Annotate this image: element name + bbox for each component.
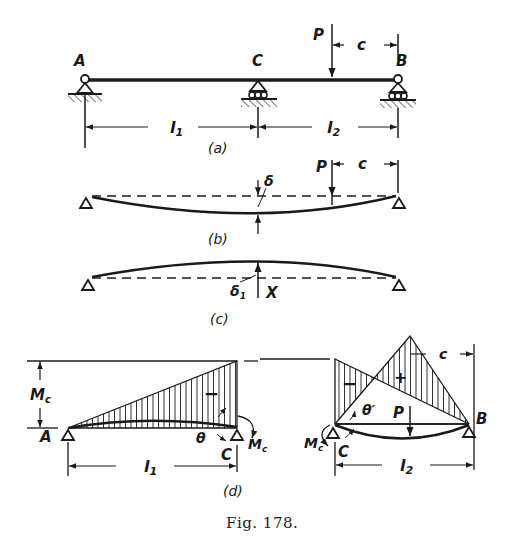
- support-left-icon: [80, 198, 92, 208]
- sign-positive: +: [394, 368, 407, 387]
- reaction-x-label: X: [265, 284, 279, 302]
- support-c-roller-icon: [241, 81, 277, 107]
- load-label-b: P: [316, 158, 327, 176]
- deflection-delta-label: δ: [264, 173, 274, 189]
- load-label-d: P: [393, 404, 404, 422]
- moment-diagram-left: −: [68, 361, 237, 428]
- span-l2-label-d: l2: [400, 456, 413, 477]
- panel-b: P c δ (b): [80, 155, 405, 247]
- support-c-icon-right: [327, 428, 339, 438]
- deflection-delta1-label: δ1: [230, 283, 246, 301]
- figure-caption: Fig. 178.: [226, 514, 298, 532]
- support-right-icon: [393, 198, 405, 208]
- panel-a-caption: (a): [208, 140, 228, 156]
- moment-diagram-right: − +: [335, 336, 469, 439]
- point-c-label-right: C: [338, 443, 349, 461]
- point-c-label: C: [252, 52, 263, 70]
- panel-c: δ1 X (c): [82, 262, 405, 328]
- panel-d-caption: (d): [223, 483, 243, 499]
- uplifted-beam: [92, 262, 396, 278]
- figure-178: A C B P c l1 l2 (a) P c: [0, 0, 509, 539]
- point-a-label: A: [73, 52, 86, 70]
- panel-c-caption: (c): [210, 311, 229, 327]
- load-label: P: [313, 26, 324, 44]
- point-a-label-d: A: [39, 428, 52, 446]
- support-left-icon: [82, 280, 94, 290]
- offset-c-label-d: c: [439, 346, 448, 362]
- offset-c-label-b: c: [358, 155, 367, 173]
- span-l2-label: l2: [327, 118, 340, 139]
- moment-mc-dim-label: Mc: [30, 386, 51, 405]
- moment-mc-label-right: Mc: [304, 435, 324, 453]
- support-b-icon: [463, 427, 475, 437]
- point-b-label-d: B: [476, 410, 487, 428]
- support-a-icon: [62, 430, 74, 440]
- support-right-icon: [393, 280, 405, 290]
- moment-mc-label-left: Mc: [248, 436, 268, 454]
- point-c-label-d: C: [221, 446, 232, 464]
- beam-diagram: A C B P c l1 l2 (a) P c: [0, 0, 509, 539]
- sign-negative: −: [204, 383, 219, 404]
- support-c-icon: [231, 430, 243, 440]
- panel-b-caption: (b): [208, 231, 228, 247]
- theta-label: θ: [196, 430, 206, 446]
- span-l1-label: l1: [170, 118, 183, 139]
- panel-d: Mc − A C θ Mc l1 (d) − +: [27, 336, 487, 499]
- span-l1-label-d: l1: [144, 457, 157, 478]
- deflected-beam: [92, 196, 396, 213]
- theta-prime-label: θ′: [362, 402, 376, 418]
- sign-negative-right: −: [342, 373, 357, 394]
- panel-a: A C B P c l1 l2 (a): [68, 24, 416, 156]
- offset-c-label: c: [357, 36, 366, 54]
